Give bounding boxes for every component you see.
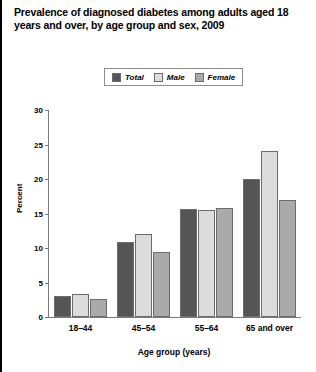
bar-female	[90, 299, 107, 317]
y-axis-tick-label: 20	[34, 175, 43, 184]
bar-total	[243, 179, 260, 317]
y-axis-tick	[45, 317, 49, 318]
x-axis-category-label: 65 and over	[238, 323, 301, 333]
legend-label: Female	[208, 73, 236, 82]
y-axis-tick-label: 5	[39, 278, 43, 287]
legend-swatch-icon	[154, 73, 163, 82]
bar-total	[54, 296, 71, 317]
bar-male	[135, 234, 152, 317]
y-axis-tick-label: 30	[34, 106, 43, 115]
x-axis-category-label: 18–44	[49, 323, 112, 333]
bar-female	[279, 200, 296, 317]
bar-total	[180, 209, 197, 317]
bar-total	[117, 242, 134, 317]
legend-swatch-icon	[112, 73, 121, 82]
bar-group	[238, 110, 301, 317]
y-axis-tick-label: 0	[39, 313, 43, 322]
legend-label: Total	[125, 73, 144, 82]
legend-swatch-icon	[195, 73, 204, 82]
bar-male	[72, 294, 89, 317]
bar-male	[261, 151, 278, 317]
y-axis-tick-label: 15	[34, 209, 43, 218]
legend-label: Male	[167, 73, 185, 82]
chart-legend: TotalMaleFemale	[104, 68, 243, 86]
figure-frame: Prevalence of diagnosed diabetes among a…	[0, 0, 316, 372]
y-axis-tick-label: 10	[34, 244, 43, 253]
bar-group	[175, 110, 238, 317]
x-axis-category-label: 45–54	[112, 323, 175, 333]
plot-area: 05101520253018–4445–5455–6465 and over	[48, 110, 301, 318]
y-axis-tick-label: 25	[34, 140, 43, 149]
bar-group	[49, 110, 112, 317]
legend-entry: Total	[112, 73, 144, 82]
bar-female	[153, 252, 170, 317]
y-axis-title: Percent	[15, 184, 24, 213]
chart-title: Prevalence of diagnosed diabetes among a…	[14, 6, 308, 32]
bar-male	[198, 210, 215, 317]
x-axis-category-label: 55–64	[175, 323, 238, 333]
legend-entry: Male	[154, 73, 185, 82]
legend-entry: Female	[195, 73, 236, 82]
x-axis-title: Age group (years)	[48, 347, 300, 357]
bar-group	[112, 110, 175, 317]
bar-female	[216, 208, 233, 317]
